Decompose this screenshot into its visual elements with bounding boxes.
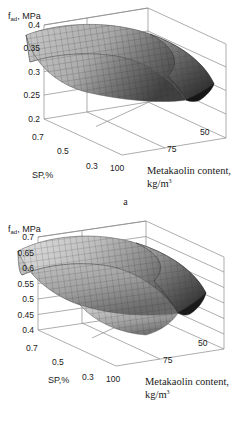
svg-text:0.5: 0.5	[22, 294, 34, 304]
svg-text:0.3: 0.3	[28, 67, 40, 77]
svg-text:0.2: 0.2	[28, 114, 40, 124]
svg-text:100: 100	[106, 374, 120, 384]
svg-text:0.4: 0.4	[22, 325, 34, 335]
x-axis-ticks-a: 0.7 0.5 0.3	[32, 132, 98, 171]
svg-text:50: 50	[200, 127, 210, 137]
y-axis-label-a: fad, MPa	[8, 11, 41, 22]
svg-text:0.5: 0.5	[52, 357, 64, 367]
svg-text:0.35: 0.35	[23, 43, 40, 53]
svg-text:0.65: 0.65	[17, 248, 34, 258]
surface-mesh-a	[26, 24, 214, 101]
y-axis-label-b: fad, MPa	[8, 224, 41, 235]
svg-text:0.25: 0.25	[23, 90, 40, 100]
svg-text:75: 75	[167, 144, 177, 154]
svg-text:0.55: 0.55	[17, 279, 34, 289]
z-axis-label-b-line1: Metakaolin content,	[145, 376, 229, 387]
x-axis-label-b: SP,%	[48, 375, 69, 385]
svg-text:0.7: 0.7	[32, 132, 44, 142]
svg-text:0.4: 0.4	[28, 20, 40, 30]
svg-text:0.3: 0.3	[86, 161, 98, 171]
z-axis-label-b-line2: kg/m3	[145, 389, 170, 400]
svg-text:50: 50	[198, 338, 208, 348]
svg-text:100: 100	[110, 163, 124, 173]
svg-text:0.6: 0.6	[22, 263, 34, 273]
surface-plot-a: 0.4 0.35 0.3 0.25 0.2 0.7 0.5 0.3 100 75…	[0, 0, 251, 200]
svg-text:0.45: 0.45	[17, 310, 34, 320]
figure-panel-a: 0.4 0.35 0.3 0.25 0.2 0.7 0.5 0.3 100 75…	[0, 0, 251, 217]
svg-text:75: 75	[163, 355, 173, 365]
z-axis-label-a-line2: kg/m3	[147, 178, 172, 189]
panel-caption-a: a	[0, 196, 251, 207]
y-axis-ticks-b: 0.7 0.65 0.6 0.55 0.5 0.45 0.4	[17, 232, 34, 335]
z-axis-label-a-line1: Metakaolin content,	[147, 165, 231, 176]
svg-text:0.7: 0.7	[26, 343, 38, 353]
figure-panel-b: 0.7 0.65 0.6 0.55 0.5 0.45 0.4 0.7 0.5 0…	[0, 217, 251, 434]
svg-text:0.3: 0.3	[82, 372, 94, 382]
svg-text:0.5: 0.5	[57, 146, 69, 156]
surface-plot-b: 0.7 0.65 0.6 0.55 0.5 0.45 0.4 0.7 0.5 0…	[0, 217, 251, 417]
x-axis-label-a: SP,%	[32, 170, 53, 180]
